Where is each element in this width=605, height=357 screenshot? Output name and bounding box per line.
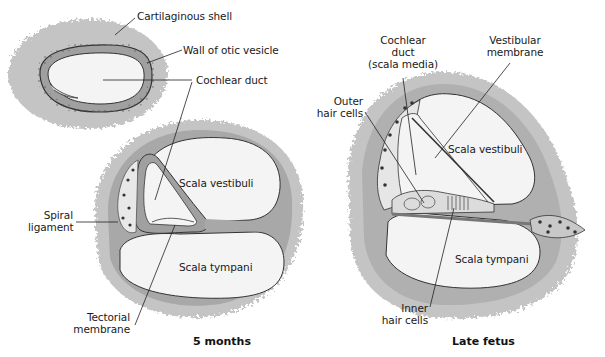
partition-5m <box>205 224 290 228</box>
scala-tympani-lf <box>386 213 540 288</box>
label-scala-tympani-lf: Scala tympani <box>455 253 529 265</box>
label-cochlear-duct-media-line3: (scala media) <box>363 58 443 70</box>
label-tectorial-membrane-line1: Tectorial <box>70 311 130 323</box>
label-spiral-ligament-line1: Spiral <box>28 209 73 221</box>
label-outer-hair-cells: Outer hair cells <box>305 95 363 119</box>
label-inner-hair-cells: Inner hair cells <box>370 302 428 326</box>
label-inner-hair-cells-line1: Inner <box>370 302 428 314</box>
label-scala-tympani-5m: Scala tympani <box>179 261 253 273</box>
label-vestibular-membrane-line1: Vestibular <box>480 34 550 46</box>
label-tectorial-membrane-line2: membrane <box>70 323 130 335</box>
label-tectorial-membrane: Tectorial membrane <box>70 311 130 335</box>
label-outer-hair-cells-line1: Outer <box>305 95 363 107</box>
label-outer-hair-cells-line2: hair cells <box>305 107 363 119</box>
panel-five-months <box>95 120 303 317</box>
caption-late-fetus: Late fetus <box>452 335 515 348</box>
caption-five-months: 5 months <box>193 335 251 348</box>
spiral-ganglion <box>530 215 585 237</box>
panel-late-fetus <box>348 72 585 318</box>
label-vestibular-membrane-line2: membrane <box>480 46 550 58</box>
label-scala-vestibuli-5m: Scala vestibuli <box>179 177 253 189</box>
label-scala-vestibuli-lf: Scala vestibuli <box>448 143 522 155</box>
label-cochlear-duct-media-line2: duct <box>363 46 443 58</box>
label-spiral-ligament-line2: ligament <box>28 221 73 233</box>
label-cochlear-duct: Cochlear duct <box>196 74 268 86</box>
label-inner-hair-cells-line2: hair cells <box>370 314 428 326</box>
label-cochlear-duct-scala-media: Cochlear duct (scala media) <box>363 34 443 70</box>
label-vestibular-membrane: Vestibular membrane <box>480 34 550 58</box>
label-wall-of-otic-vesicle: Wall of otic vesicle <box>183 44 279 56</box>
panel-early-otic-vesicle <box>8 19 168 129</box>
label-spiral-ligament: Spiral ligament <box>28 209 73 233</box>
label-cartilaginous-shell: Cartilaginous shell <box>137 10 232 22</box>
label-cochlear-duct-media-line1: Cochlear <box>363 34 443 46</box>
